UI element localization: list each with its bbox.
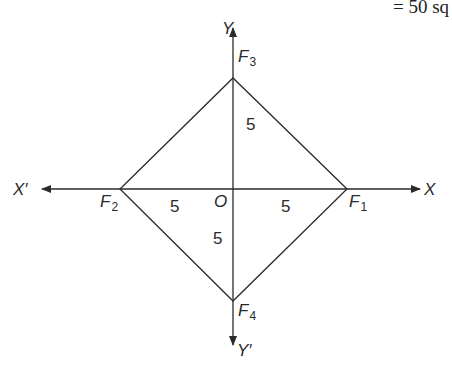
axis-label-x: X [424,181,435,198]
diagram-canvas: = 50 sq Y X′ X Y′ O F3 F1 F2 F4 5 5 5 5 [0,0,452,368]
point-f3-subscript: 3 [249,55,256,69]
origin-label: O [214,193,227,210]
distance-label-of4: 5 [213,230,222,247]
point-label-f2: F2 [100,193,118,210]
coordinate-diagram [0,0,452,368]
axis-label-x-prime: X′ [13,181,28,198]
point-f1-subscript: 1 [360,200,367,214]
point-f2-subscript: 2 [111,200,118,214]
point-label-f3: F3 [238,48,256,65]
distance-label-of1: 5 [281,198,290,215]
distance-label-of3: 5 [246,116,255,133]
point-f1-base: F [349,192,359,211]
point-f2-base: F [100,192,110,211]
point-f4-base: F [238,301,248,320]
top-note-text: = 50 sq [393,0,449,18]
point-label-f4: F4 [238,302,256,319]
axis-label-y-prime: Y′ [237,342,252,359]
distance-label-of2: 5 [170,198,179,215]
point-label-f1: F1 [349,193,367,210]
point-f3-base: F [238,47,248,66]
point-f4-subscript: 4 [249,309,256,323]
axis-label-y: Y [222,20,233,37]
